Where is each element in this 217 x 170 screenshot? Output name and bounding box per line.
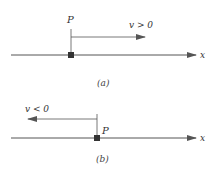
point-label-a: P xyxy=(66,14,74,25)
point-p-b xyxy=(94,135,100,141)
velocity-diagram: x P v > 0 (a) x P v < 0 (b) xyxy=(0,0,217,170)
point-label-b: P xyxy=(101,125,109,136)
caption-b: (b) xyxy=(96,154,109,164)
x-axis-label-b: x xyxy=(200,133,205,143)
panel-a: x P v > 0 (a) xyxy=(11,14,205,88)
x-axis-label-a: x xyxy=(200,50,205,60)
caption-a: (a) xyxy=(97,78,110,88)
panel-b: x P v < 0 (b) xyxy=(11,104,205,164)
point-p-a xyxy=(68,52,74,58)
velocity-label-a: v > 0 xyxy=(129,20,153,30)
velocity-label-b: v < 0 xyxy=(25,104,49,114)
